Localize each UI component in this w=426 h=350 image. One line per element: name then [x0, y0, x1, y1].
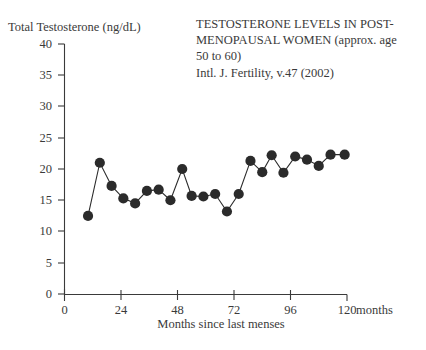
x-tick-label-120: 120	[338, 303, 357, 317]
x-axis: 0 24 48 72 96 120 months	[61, 289, 393, 317]
chart-figure: Total Testosterone (ng/dL) TESTOSTERONE …	[0, 0, 426, 350]
data-point	[245, 156, 255, 166]
x-tick-label-0: 0	[61, 303, 67, 317]
data-point	[142, 186, 152, 196]
data-point	[340, 150, 350, 160]
data-point	[257, 167, 267, 177]
x-tick-label-72: 72	[228, 303, 241, 317]
data-point	[210, 189, 220, 199]
data-point	[177, 164, 187, 174]
data-point	[198, 191, 208, 201]
y-tick-label-0: 0	[46, 287, 52, 301]
y-axis: 40 35 30 25 20 15 10 5 0	[40, 37, 65, 301]
data-series	[83, 150, 350, 221]
data-point	[83, 211, 93, 221]
y-tick-label-5: 5	[46, 256, 52, 270]
y-tick-label-30: 30	[40, 99, 53, 113]
data-point	[267, 150, 277, 160]
x-tick-label-24: 24	[115, 303, 128, 317]
plot-area: 40 35 30 25 20 15 10 5 0 0 24 48 72 96	[0, 0, 426, 350]
data-point	[106, 181, 116, 191]
y-tick-label-35: 35	[40, 68, 53, 82]
data-point	[278, 168, 288, 178]
data-point	[314, 161, 324, 171]
data-point	[302, 155, 312, 165]
x-axis-title-text: Months since last menses	[141, 317, 284, 331]
series-markers	[83, 150, 350, 221]
data-point	[154, 185, 164, 195]
data-point	[187, 191, 197, 201]
y-tick-label-25: 25	[40, 131, 53, 145]
data-point	[165, 195, 175, 205]
x-axis-title: Months since last menses	[0, 317, 426, 332]
data-point	[118, 193, 128, 203]
x-tick-label-96: 96	[284, 303, 297, 317]
data-point	[290, 151, 300, 161]
data-point	[222, 206, 232, 216]
data-point	[234, 189, 244, 199]
data-point	[130, 198, 140, 208]
x-axis-unit-label: months	[356, 303, 393, 317]
y-tick-marks	[58, 44, 65, 294]
x-tick-label-48: 48	[171, 303, 184, 317]
data-point	[95, 158, 105, 168]
y-tick-label-10: 10	[40, 224, 53, 238]
y-tick-label-20: 20	[40, 162, 53, 176]
y-tick-label-15: 15	[40, 193, 53, 207]
data-point	[325, 150, 335, 160]
y-tick-label-40: 40	[40, 37, 53, 51]
